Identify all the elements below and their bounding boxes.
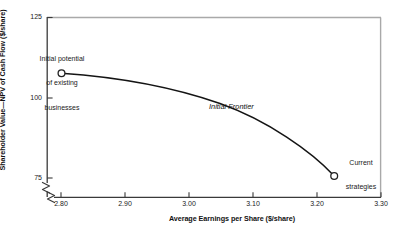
y-tick-label-75: 75	[16, 174, 42, 182]
annotation-current-strategies-line-2: strategies	[333, 183, 389, 191]
annotation-initial-potential-line-3: businesses	[22, 104, 102, 112]
y-axis-title: Shareholder Value—NPV of Cash Flow ($/sh…	[0, 0, 12, 190]
x-tick-label-3-00: 3.00	[172, 200, 206, 208]
y-tick-label-125: 125	[16, 13, 42, 21]
annotation-current-strategies: Current strategies	[333, 142, 389, 208]
frontier-curve	[62, 73, 334, 175]
chart-figure: Shareholder Value—NPV of Cash Flow ($/sh…	[0, 0, 404, 240]
x-axis-title: Average Earnings per Share ($/share)	[112, 215, 352, 223]
annotation-initial-frontier-line-1: Initial Frontier	[209, 103, 254, 112]
x-tick-label-2-80: 2.80	[44, 200, 78, 208]
annotation-initial-potential-line-2: of existing	[22, 79, 102, 87]
x-tick-label-3-20: 3.20	[300, 200, 334, 208]
x-tick-label-2-90: 2.90	[108, 200, 142, 208]
annotation-current-strategies-line-1: Current	[333, 159, 389, 167]
annotation-initial-potential-line-1: Initial potential	[22, 55, 102, 63]
x-tick-label-3-10: 3.10	[236, 200, 270, 208]
annotation-initial-potential: Initial potential of existing businesses	[22, 38, 102, 129]
axis-break-y-icon	[43, 183, 50, 194]
annotation-initial-frontier: Initial Frontier	[209, 86, 254, 130]
